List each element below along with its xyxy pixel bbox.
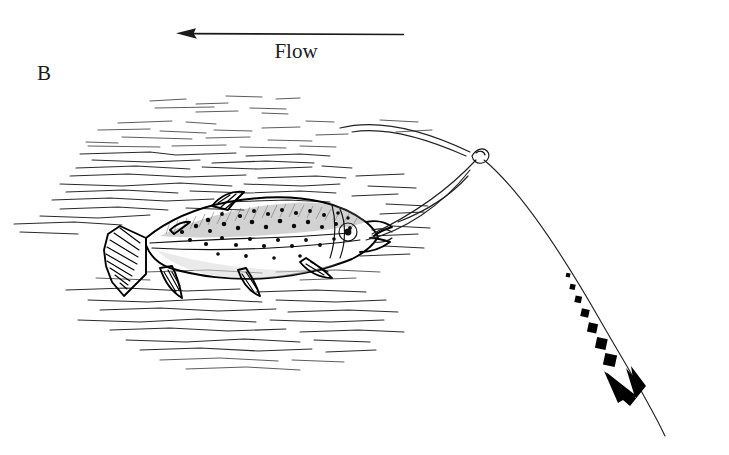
flow-label: Flow [274, 39, 318, 63]
figure-panel-b: B Flow [0, 0, 729, 455]
panel-label: B [37, 61, 51, 85]
